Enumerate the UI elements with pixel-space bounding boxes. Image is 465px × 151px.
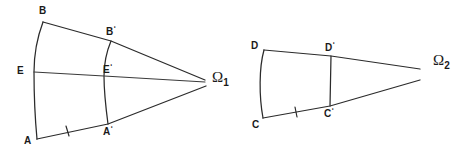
vertex-label-A: A	[24, 136, 31, 146]
prime-mark-C: ʹ	[332, 106, 334, 115]
vertex-label-E-prime: Eʹ	[103, 63, 112, 75]
vertex-label-B-prime: Bʹ	[106, 25, 116, 37]
vertex-label-D-prime: Dʹ	[325, 41, 335, 53]
ray-A-to-omega1	[37, 86, 206, 139]
vertex-label-B: B	[39, 6, 46, 16]
segment-Dprime-Cprime	[330, 56, 331, 106]
ideal-point-label-omega-2: Ω2	[433, 53, 450, 71]
arc-Bprime-Eprime-Aprime	[104, 41, 111, 124]
tick-mark-AAprime	[66, 126, 69, 136]
geometry-diagram-canvas: B E A Bʹ Eʹ Aʹ Ω1 D C Dʹ Cʹ Ω2	[0, 0, 465, 151]
ray-D-to-omega2	[264, 50, 420, 69]
omega-2-subscript: 2	[444, 60, 450, 71]
prime-mark-A: ʹ	[111, 124, 113, 133]
ideal-point-label-omega-1: Ω1	[212, 70, 229, 88]
prime-mark-E: ʹ	[110, 62, 112, 71]
ray-B-to-omega1	[43, 22, 205, 80]
arc-B-E-A	[34, 22, 43, 139]
vertex-label-C-prime: Cʹ	[324, 107, 334, 119]
prime-mark-D: ʹ	[333, 40, 335, 49]
left-figure-group	[34, 22, 206, 139]
ray-E-to-omega1	[34, 72, 205, 82]
ray-C-to-omega2	[263, 80, 420, 118]
prime-mark-B: ʹ	[114, 24, 116, 33]
right-figure-group	[260, 50, 420, 118]
diagram-vector-layer	[0, 0, 465, 151]
arc-D-C	[260, 50, 264, 118]
vertex-label-D: D	[251, 41, 258, 51]
vertex-label-C: C	[252, 120, 259, 130]
vertex-label-E: E	[17, 66, 24, 76]
omega-1-subscript: 1	[223, 77, 229, 88]
vertex-label-A-prime: Aʹ	[103, 125, 113, 137]
